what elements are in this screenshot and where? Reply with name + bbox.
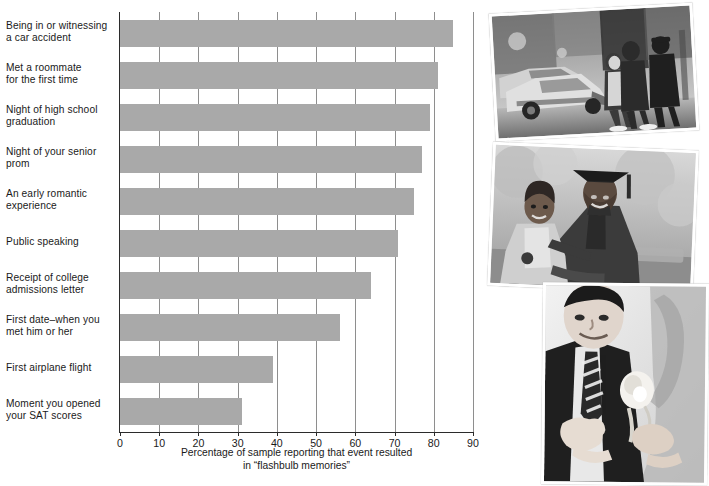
category-label-line: Night of high school xyxy=(6,104,112,116)
category-label-line: prom xyxy=(6,158,112,170)
category-label: First date–when youmet him or her xyxy=(6,314,112,339)
x-tick-30 xyxy=(238,432,239,436)
bar xyxy=(120,398,242,425)
x-axis-caption-line-1: Percentage of sample reporting that even… xyxy=(120,447,473,460)
category-label: Met a roommatefor the first time xyxy=(6,62,112,87)
category-label-line: admissions letter xyxy=(6,284,112,296)
category-label: Public speaking xyxy=(6,236,112,248)
photo-collage xyxy=(480,0,707,483)
category-label-line: Night of your senior xyxy=(6,146,112,158)
category-label: Moment you openedyour SAT scores xyxy=(6,398,112,423)
category-label-line: An early romantic xyxy=(6,188,112,200)
x-tick-10 xyxy=(159,432,160,436)
bar xyxy=(120,230,398,257)
category-label: Being in or witnessinga car accident xyxy=(6,20,112,45)
prom-photo xyxy=(541,282,709,486)
category-label: An early romanticexperience xyxy=(6,188,112,213)
category-label-line: Receipt of college xyxy=(6,272,112,284)
category-label-line: Public speaking xyxy=(6,236,112,248)
x-tick-0 xyxy=(120,432,121,436)
category-label-line: your SAT scores xyxy=(6,410,112,422)
bar-chart: Being in or witnessinga car accidentMet … xyxy=(0,0,480,483)
category-label-line: a car accident xyxy=(6,32,112,44)
bar xyxy=(120,62,438,89)
x-tick-50 xyxy=(316,432,317,436)
gridline-90 xyxy=(473,12,474,432)
category-label-line: for the first time xyxy=(6,74,112,86)
x-axis-caption: Percentage of sample reporting that even… xyxy=(120,447,473,472)
x-tick-60 xyxy=(355,432,356,436)
x-tick-80 xyxy=(434,432,435,436)
car-accident-photo xyxy=(489,2,700,141)
bar xyxy=(120,272,371,299)
category-label-line: experience xyxy=(6,200,112,212)
bar xyxy=(120,356,273,383)
category-label: Receipt of collegeadmissions letter xyxy=(6,272,112,297)
category-label-line: met him or her xyxy=(6,326,112,338)
bar xyxy=(120,104,430,131)
category-label-line: First airplane flight xyxy=(6,362,112,374)
x-tick-40 xyxy=(277,432,278,436)
category-label-line: First date–when you xyxy=(6,314,112,326)
x-axis-line xyxy=(119,432,474,433)
bar xyxy=(120,146,422,173)
plot-area: 0102030405060708090 xyxy=(120,12,473,432)
category-label-line: Met a roommate xyxy=(6,62,112,74)
category-label: First airplane flight xyxy=(6,362,112,374)
x-tick-20 xyxy=(198,432,199,436)
category-label-line: Moment you opened xyxy=(6,398,112,410)
category-label-line: Being in or witnessing xyxy=(6,20,112,32)
bar xyxy=(120,314,340,341)
category-label: Night of high schoolgraduation xyxy=(6,104,112,129)
graduation-photo xyxy=(487,142,699,295)
category-label-column: Being in or witnessinga car accidentMet … xyxy=(0,12,112,432)
x-tick-70 xyxy=(395,432,396,436)
category-label-line: graduation xyxy=(6,116,112,128)
x-axis-caption-line-2: in “flashbulb memories” xyxy=(120,460,473,473)
bar xyxy=(120,20,453,47)
bar xyxy=(120,188,414,215)
x-tick-90 xyxy=(473,432,474,436)
category-label: Night of your seniorprom xyxy=(6,146,112,171)
